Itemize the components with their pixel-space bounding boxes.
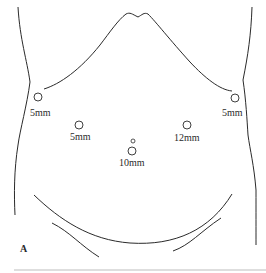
port-left-flank-label: 5mm bbox=[30, 107, 51, 118]
right-torso-outline bbox=[243, 7, 256, 245]
right-inguinal-line bbox=[173, 218, 221, 251]
panel-label: A bbox=[20, 243, 28, 254]
costal-margin-outline bbox=[44, 13, 232, 91]
umbilicus-marker bbox=[131, 139, 135, 143]
port-right-flank-label: 5mm bbox=[222, 107, 243, 118]
port-left-mid-circle bbox=[75, 121, 83, 129]
port-umbilical-label: 10mm bbox=[119, 157, 145, 168]
lower-abdomen-curve bbox=[34, 194, 232, 243]
port-left-flank-circle bbox=[34, 93, 42, 101]
port-placement-diagram: 5mm 5mm 5mm 12mm 10mm A bbox=[0, 0, 266, 273]
port-umbilical-circle bbox=[128, 147, 136, 155]
port-right-flank-circle bbox=[231, 94, 239, 102]
left-torso-outline bbox=[14, 7, 30, 215]
port-right-mid-circle bbox=[183, 121, 191, 129]
port-right-mid-label: 12mm bbox=[174, 132, 200, 143]
left-inguinal-line bbox=[52, 223, 99, 257]
port-left-mid-label: 5mm bbox=[70, 131, 91, 142]
